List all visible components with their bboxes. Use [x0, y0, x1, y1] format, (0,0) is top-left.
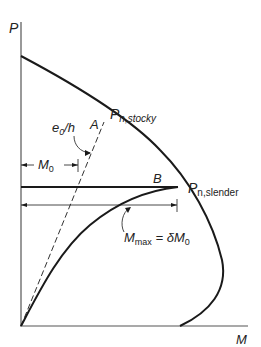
mmax-leader-arrow-icon [125, 207, 131, 213]
p-slender-label: Pn,slender [188, 180, 239, 198]
eccentricity-label: e0/h [52, 120, 75, 137]
interaction-diagram: P M Pn,stocky Pn,slender A B e0/h M0 Mma… [0, 0, 261, 347]
mmax-label: Mmax = δM0 [124, 230, 190, 247]
point-a-label: A [89, 117, 99, 132]
mmax-arrow-left-icon [21, 203, 27, 207]
m0-arrow-left-icon [21, 163, 27, 167]
mmax-arrow-right-icon [171, 203, 177, 207]
slender-path [21, 187, 178, 326]
m0-arrow-right-icon [72, 163, 78, 167]
e0h-leader [74, 136, 90, 153]
mmax-leader [122, 208, 130, 232]
m-axis-label: M [236, 332, 247, 347]
p-axis-label: P [9, 20, 19, 36]
p-stocky-label: Pn,stocky [110, 106, 157, 124]
point-b-label: B [153, 171, 162, 186]
